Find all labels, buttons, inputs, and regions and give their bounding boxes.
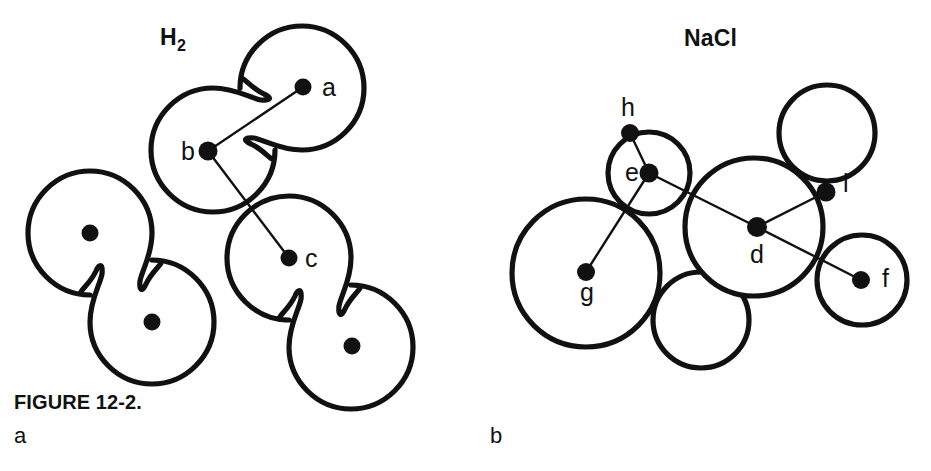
point-label-e: e	[625, 158, 639, 186]
atom-dot	[144, 314, 161, 331]
atom-dot	[344, 338, 361, 355]
panel-a-title-subscript: 2	[177, 37, 186, 54]
point-label-c: c	[305, 244, 318, 272]
ion-circle-top-right	[779, 85, 875, 181]
point-label-h: h	[621, 93, 635, 121]
point-label-a: a	[322, 73, 336, 101]
atom-dot-a	[295, 79, 312, 96]
point-label-i: i	[843, 169, 849, 197]
atom-dot-b	[199, 142, 218, 161]
panel-letter-b: b	[490, 423, 502, 448]
ion-center-h	[621, 124, 639, 142]
panel-a-title: H	[160, 24, 177, 50]
point-label-f: f	[882, 264, 889, 292]
figure-svg: a b c H 2	[0, 0, 931, 471]
point-label-b: b	[181, 137, 195, 165]
figure-caption: FIGURE 12-2.	[14, 391, 142, 413]
ion-center-e	[640, 164, 659, 183]
point-label-g: g	[580, 278, 594, 306]
ion-center-i	[817, 183, 836, 202]
panel-letter-a: a	[14, 423, 27, 448]
point-label-d: d	[750, 240, 764, 268]
figure-container: a b c H 2	[0, 0, 931, 471]
ion-center-d	[747, 217, 767, 237]
atom-dot	[82, 225, 99, 242]
ion-center-f	[852, 271, 870, 289]
panel-b-title: NaCl	[684, 25, 737, 51]
